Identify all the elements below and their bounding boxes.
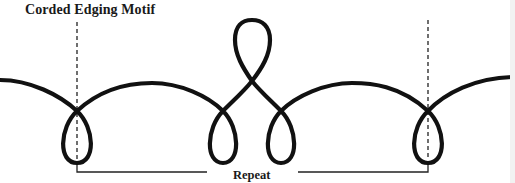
edge-strip xyxy=(510,0,515,183)
repeat-label: Repeat xyxy=(233,168,271,183)
corded-edging-diagram xyxy=(0,0,515,183)
